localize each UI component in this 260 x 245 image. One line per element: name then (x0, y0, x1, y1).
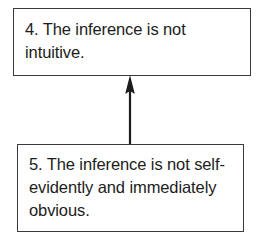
diagram-node-4-label: 4. The inference is not intuitive. (25, 18, 240, 64)
diagram-canvas: 4. The inference is not intuitive. 5. Th… (0, 0, 260, 245)
connector-arrow-node5-to-node4 (118, 72, 142, 148)
diagram-node-5-label: 5. The inference is not self-evidently a… (29, 153, 233, 222)
diagram-node-4[interactable]: 4. The inference is not intuitive. (13, 8, 251, 76)
diagram-node-5[interactable]: 5. The inference is not self-evidently a… (17, 144, 244, 232)
